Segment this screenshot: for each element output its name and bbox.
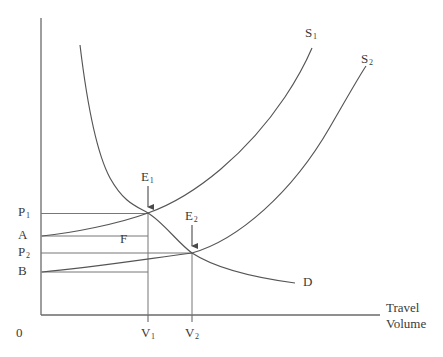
equilibrium-1-label: E1 xyxy=(141,170,153,184)
y-label-a: A xyxy=(18,228,28,242)
x-axis-caption: Travel Volume xyxy=(386,300,426,333)
y-label-p1: P1 xyxy=(18,205,30,219)
supply-curve-2 xyxy=(42,66,366,272)
supply-curve-1-label: S1 xyxy=(305,26,317,40)
figure-canvas xyxy=(0,0,443,357)
region-f-label: F xyxy=(120,232,127,246)
demand-curve xyxy=(80,45,295,283)
origin-label: 0 xyxy=(16,326,23,340)
x-axis-caption-line2: Volume xyxy=(386,316,426,332)
y-label-b: B xyxy=(18,264,27,278)
supply-demand-figure: P1 A P2 B V1 V2 0 S1 S2 D E1 E2 F Travel… xyxy=(0,0,443,357)
supply-curve-1 xyxy=(42,48,312,236)
y-label-p2: P2 xyxy=(18,245,30,259)
x-label-v2: V2 xyxy=(185,326,199,340)
x-label-v1: V1 xyxy=(141,326,155,340)
supply-curve-2-label: S2 xyxy=(361,52,373,66)
equilibrium-2-label: E2 xyxy=(185,209,197,223)
demand-curve-label: D xyxy=(303,275,313,289)
x-axis-caption-line1: Travel xyxy=(386,300,426,316)
